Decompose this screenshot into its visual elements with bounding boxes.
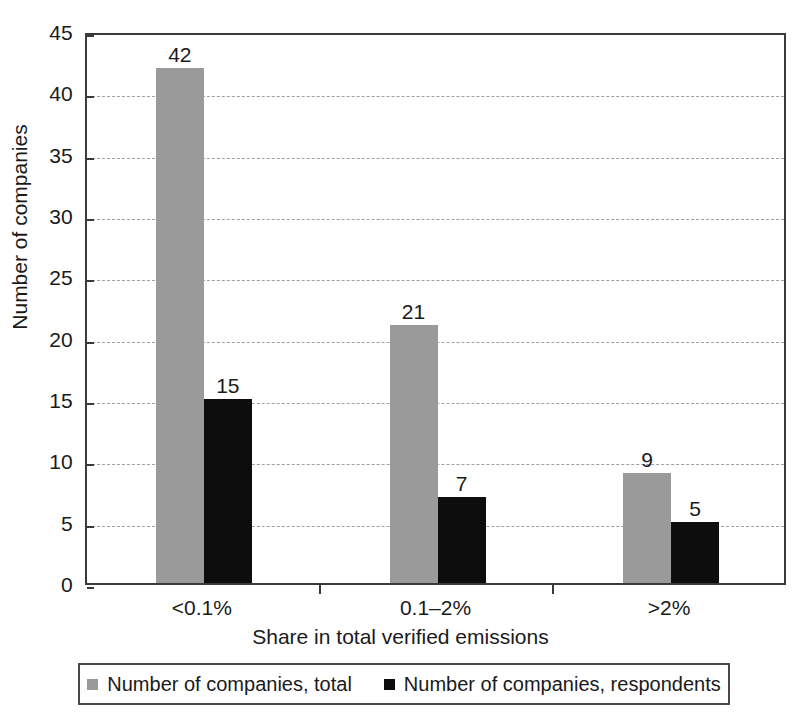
bar-value-label: 15 (184, 375, 272, 396)
y-axis-tick (87, 342, 94, 344)
plot-area: 421521795 (85, 33, 786, 585)
bar-value-label: 42 (136, 44, 224, 65)
y-axis-tick (87, 526, 94, 528)
y-axis-tick (87, 587, 94, 589)
legend-item-respondents[interactable]: Number of companies, respondents (384, 674, 721, 694)
bar-respondents[interactable] (204, 399, 252, 583)
x-axis-tick-label: 0.1–2% (326, 596, 546, 620)
x-axis-tick (319, 585, 321, 594)
bar-value-label: 7 (418, 473, 506, 494)
legend-item-total[interactable]: Number of companies, total (87, 674, 352, 694)
y-axis-tick-label: 25 (27, 267, 73, 288)
gray-square-swatch (87, 679, 98, 690)
x-axis-title: Share in total verified emissions (0, 625, 801, 649)
x-axis-tick (552, 585, 554, 594)
y-axis-tick-label: 20 (27, 329, 73, 350)
y-axis-tick (87, 403, 94, 405)
y-axis-tick (87, 280, 94, 282)
bar-respondents[interactable] (671, 522, 719, 583)
bar-value-label: 5 (651, 498, 739, 519)
y-axis-tick-label: 45 (27, 22, 73, 43)
bar-value-label: 21 (370, 301, 458, 322)
bar-total[interactable] (390, 325, 438, 583)
black-square-swatch (384, 679, 395, 690)
x-axis-tick-label: <0.1% (92, 596, 312, 620)
y-axis-tick-label: 0 (27, 574, 73, 595)
y-axis-tick-label: 40 (27, 83, 73, 104)
legend-label: Number of companies, respondents (404, 674, 721, 694)
y-axis-tick (87, 464, 94, 466)
y-axis-tick-label: 35 (27, 145, 73, 166)
legend-label: Number of companies, total (107, 674, 352, 694)
chart-legend: Number of companies, total Number of com… (78, 663, 730, 705)
y-axis-tick (87, 219, 94, 221)
bar-total[interactable] (156, 68, 204, 583)
chart-canvas: Number of companies 051015202530354045 4… (0, 0, 801, 719)
bar-respondents[interactable] (438, 497, 486, 583)
y-axis-tick-label: 15 (27, 390, 73, 411)
y-axis-tick (87, 158, 94, 160)
bar-total[interactable] (623, 473, 671, 583)
bar-value-label: 9 (603, 449, 691, 470)
y-axis-tick-label: 5 (27, 513, 73, 534)
x-axis-tick-label: >2% (559, 596, 779, 620)
y-axis-tick-label: 30 (27, 206, 73, 227)
y-axis-tick (87, 35, 94, 37)
y-axis-tick (87, 96, 94, 98)
y-axis-tick-label: 10 (27, 451, 73, 472)
